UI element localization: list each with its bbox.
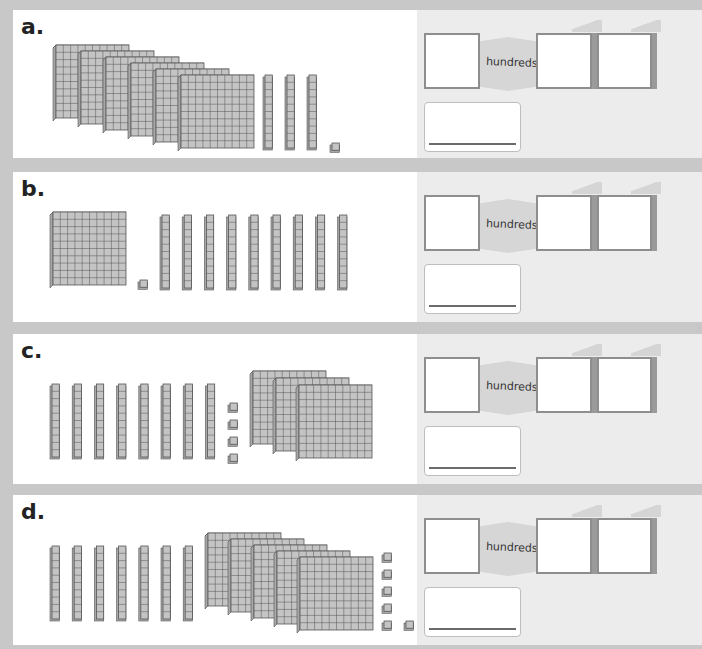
number-answer-box[interactable] [424,426,521,476]
ten-rod-block [161,546,170,621]
ten-rod-block [293,215,302,290]
one-unit-block [228,420,237,429]
ones-digit-box[interactable] [597,357,652,413]
fold-flap [631,505,661,517]
ten-rod-block [307,75,316,150]
ten-rod-block [205,384,214,459]
hundreds-digit-box[interactable] [424,357,480,413]
ten-rod-block [249,215,258,290]
ones-box-tab [652,195,657,251]
one-unit-block [382,553,391,562]
exercise-row-b: b. hundreds [13,172,702,322]
ten-rod-block [338,215,347,290]
ones-digit-box[interactable] [597,33,652,89]
number-answer-box[interactable] [424,587,521,637]
answer-line [429,305,516,307]
fold-flap [572,344,602,356]
blocks-area-a: a. [13,10,417,158]
one-unit-block [228,437,237,446]
ten-rod-block [161,384,170,459]
hundreds-label: hundreds [486,379,538,394]
one-unit-block [228,403,237,412]
fold-flap [572,182,602,194]
ten-rod-block [72,384,81,459]
fold-flap [572,505,602,517]
ten-rod-block [139,546,148,621]
base-ten-blocks-a [13,10,417,158]
blocks-area-c: c. [13,334,417,484]
hundred-flat-block [296,385,372,461]
hundreds-label: hundreds [486,55,538,70]
exercise-row-a: a. hundreds [13,10,702,158]
tens-digit-box[interactable] [536,357,592,413]
base-ten-blocks-c [13,334,417,484]
hundreds-label: hundreds [486,540,538,555]
one-unit-block [382,570,391,579]
number-answer-box[interactable] [424,102,521,152]
number-answer-box[interactable] [424,264,521,314]
ten-rod-block [263,75,272,150]
base-ten-blocks-b [13,172,417,322]
ones-box-tab [652,518,657,574]
ten-rod-block [285,75,294,150]
answer-panel-a: hundreds [417,10,702,158]
ten-rod-block [50,546,59,621]
tens-digit-box[interactable] [536,195,592,251]
fold-flap [631,20,661,32]
blocks-area-b: b. [13,172,417,322]
answer-panel-d: hundreds [417,495,702,645]
one-unit-block [330,143,339,152]
ten-rod-block [94,384,103,459]
answer-panel-b: hundreds [417,172,702,322]
hundreds-digit-box[interactable] [424,518,480,574]
one-unit-block [404,621,413,630]
answer-panel-c: hundreds [417,334,702,484]
hundred-flat-block [50,212,126,288]
ones-digit-box[interactable] [597,195,652,251]
ten-rod-block [94,546,103,621]
hundreds-digit-box[interactable] [424,33,480,89]
hundred-flat-block [178,75,254,151]
fold-flap [572,20,602,32]
ten-rod-block [160,215,169,290]
tens-digit-box[interactable] [536,518,592,574]
ones-box-tab [652,33,657,89]
ten-rod-block [182,215,191,290]
ten-rod-block [117,546,126,621]
one-unit-block [228,454,237,463]
ten-rod-block [204,215,213,290]
answer-line [429,628,516,630]
ten-rod-block [117,384,126,459]
exercise-row-c: c. hundreds [13,334,702,484]
base-ten-blocks-d [13,495,417,645]
ten-rod-block [72,546,81,621]
ones-box-tab [652,357,657,413]
hundreds-digit-box[interactable] [424,195,480,251]
ones-digit-box[interactable] [597,518,652,574]
one-unit-block [382,587,391,596]
fold-flap [631,182,661,194]
ten-rod-block [183,384,192,459]
hundreds-label: hundreds [486,217,538,232]
one-unit-block [382,604,391,613]
ten-rod-block [271,215,280,290]
ten-rod-block [50,384,59,459]
ten-rod-block [315,215,324,290]
blocks-area-d: d. [13,495,417,645]
tens-digit-box[interactable] [536,33,592,89]
fold-flap [631,344,661,356]
answer-line [429,143,516,145]
ten-rod-block [227,215,236,290]
ten-rod-block [139,384,148,459]
ten-rod-block [183,546,192,621]
one-unit-block [138,280,147,289]
answer-line [429,467,516,469]
exercise-row-d: d. hundreds [13,495,702,645]
hundred-flat-block [297,557,373,633]
one-unit-block [382,621,391,630]
